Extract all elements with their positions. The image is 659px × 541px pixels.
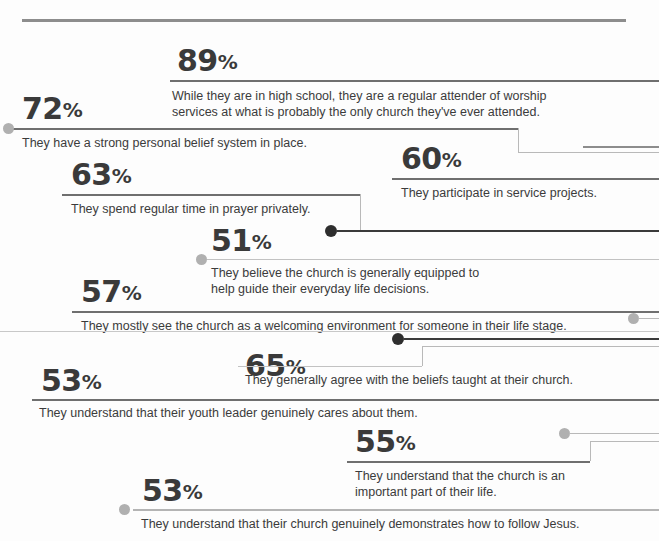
stat-rule-60	[392, 178, 659, 180]
connector-horizontal-65	[422, 346, 659, 347]
stat-value-51: 51%	[211, 226, 271, 256]
endpoint-dot-dark-51	[325, 225, 337, 237]
stat-desc-89: While they are in high school, they are …	[172, 88, 642, 120]
connector-dark-51	[337, 230, 659, 232]
stat-rule-57	[72, 311, 659, 313]
stat-rule-53-jesus	[133, 509, 659, 511]
connector-vertical-65	[422, 346, 423, 366]
stat-rule-65	[238, 366, 422, 367]
stat-value-60: 60%	[401, 144, 461, 174]
endpoint-dot-53-jesus	[119, 504, 130, 515]
stat-value-89: 89%	[177, 46, 237, 76]
connector-stub-right-upper	[583, 146, 659, 148]
connector-dark-65	[404, 338, 659, 340]
stat-value-72: 72%	[22, 94, 82, 124]
connector-horizontal-72	[518, 152, 659, 153]
stat-desc-65: They generally agree with the beliefs ta…	[245, 372, 645, 388]
stat-rule-55	[347, 461, 590, 463]
endpoint-dot-72	[3, 123, 14, 134]
stat-value-55: 55%	[355, 427, 415, 457]
endpoint-dot-51	[196, 254, 207, 265]
stat-rule-89	[170, 80, 659, 82]
stat-rule-63	[62, 194, 360, 196]
stat-value-53-youth: 53%	[41, 366, 101, 396]
top-divider-rule	[22, 19, 626, 22]
infographic-canvas: 89% While they are in high school, they …	[0, 0, 659, 541]
stat-desc-53-jesus: They understand that their church genuin…	[141, 516, 659, 532]
stat-desc-53-youth: They understand that their youth leader …	[39, 405, 639, 421]
stat-desc-55: They understand that the church is an im…	[355, 468, 605, 500]
stat-value-57: 57%	[81, 277, 141, 307]
connector-horizontal-55-step	[590, 441, 659, 442]
connector-vertical-55	[590, 441, 591, 461]
stat-rule-53-youth	[32, 399, 659, 401]
stat-rule-72	[13, 128, 518, 130]
connector-horizontal-57	[638, 318, 659, 319]
connector-vertical-63	[360, 194, 361, 232]
divider-below-57	[0, 331, 659, 332]
stat-desc-60: They participate in service projects.	[401, 185, 659, 201]
stat-rule-51	[207, 259, 659, 260]
connector-horizontal-55	[569, 433, 659, 434]
connector-vertical-72	[518, 128, 519, 152]
endpoint-dot-dark-65	[392, 333, 404, 345]
stat-value-53-jesus: 53%	[142, 476, 202, 506]
stat-value-63: 63%	[71, 160, 131, 190]
stat-desc-51: They believe the church is generally equ…	[211, 265, 631, 297]
stat-desc-63: They spend regular time in prayer privat…	[71, 201, 401, 217]
